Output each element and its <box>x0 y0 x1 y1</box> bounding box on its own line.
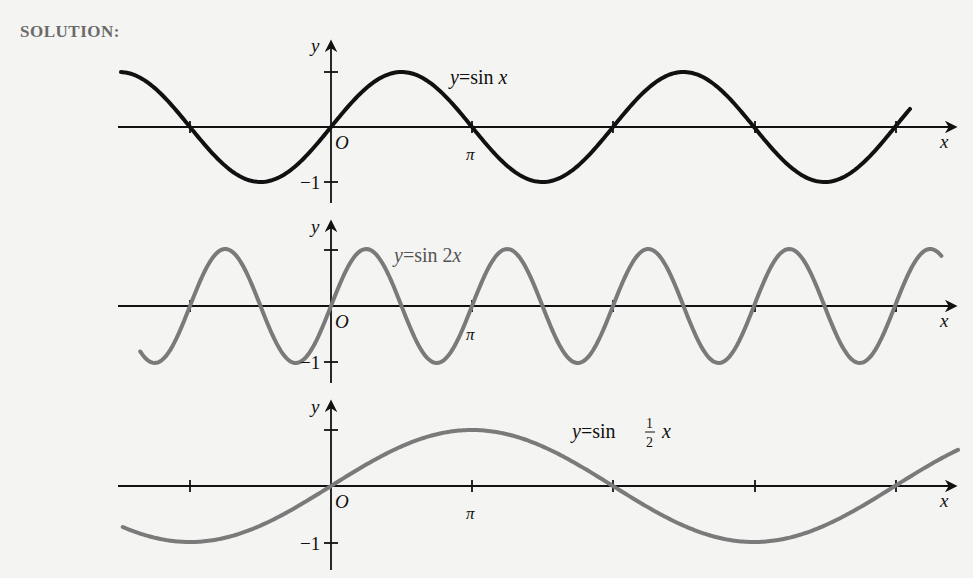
origin-label: O <box>335 491 349 512</box>
graph-sin-half-x: y x O π −1 y=sin 1 2 x <box>118 396 958 570</box>
x-axis-label: x <box>939 310 949 331</box>
origin-label: O <box>335 132 349 153</box>
svg-text:x: x <box>661 420 671 442</box>
equation-label: y=sin x <box>448 66 508 89</box>
pi-label: π <box>466 145 475 164</box>
graph-sin-2x: y x O π −1 y=sin 2x <box>118 216 955 383</box>
neg-one-label: −1 <box>300 352 320 373</box>
pi-label: π <box>466 325 475 344</box>
x-axis-label: x <box>939 131 949 152</box>
equation-label: y=sin 1 2 x <box>570 416 671 450</box>
x-axis-label: x <box>939 490 949 511</box>
y-axis-label: y <box>309 216 320 237</box>
svg-text:2: 2 <box>646 435 653 450</box>
y-axis-label: y <box>309 35 320 56</box>
y-axis-label: y <box>309 396 320 417</box>
graph-sin-x: y x O π −1 y=sin x <box>118 35 955 203</box>
equation-label: y=sin 2x <box>392 244 462 267</box>
pi-label: π <box>466 504 475 523</box>
svg-text:1: 1 <box>646 416 653 431</box>
chart-canvas: y x O π −1 y=sin x y x O π −1 y=sin 2x <box>0 0 973 578</box>
neg-one-label: −1 <box>300 533 320 554</box>
neg-one-label: −1 <box>300 172 320 193</box>
origin-label: O <box>335 311 349 332</box>
svg-text:y=sin: y=sin <box>570 420 616 443</box>
